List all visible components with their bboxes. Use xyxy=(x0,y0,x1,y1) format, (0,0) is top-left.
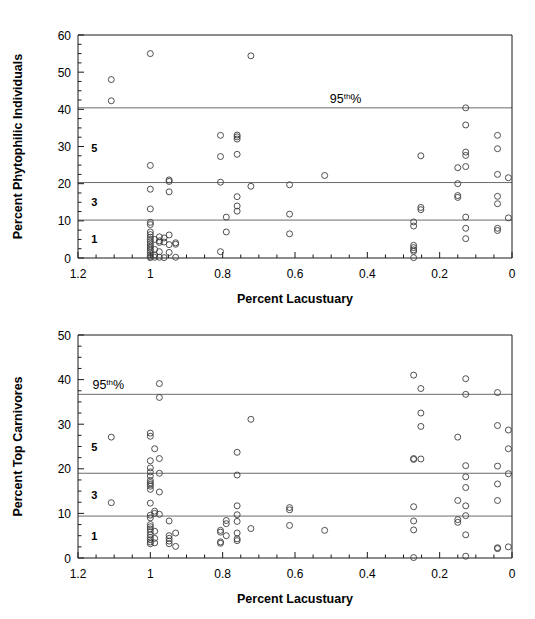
data-point xyxy=(248,183,254,189)
data-point xyxy=(418,410,424,416)
zone-label: 1 xyxy=(91,530,97,542)
data-point xyxy=(147,162,153,168)
x-tick-label: 0.4 xyxy=(359,567,376,581)
x-tick-label: 0.2 xyxy=(431,267,448,281)
data-point xyxy=(463,225,469,231)
data-point xyxy=(173,543,179,549)
plot-frame xyxy=(78,35,512,258)
zone-label: 3 xyxy=(91,196,97,208)
data-point xyxy=(108,77,114,83)
data-point xyxy=(495,497,501,503)
data-point xyxy=(463,376,469,382)
y-tick-label: 50 xyxy=(58,66,72,80)
percentile-annotation: 95th% xyxy=(330,91,362,106)
figure-page: 01020304050601.210.80.60.40.2053195th%Pe… xyxy=(0,0,535,619)
data-point xyxy=(218,132,224,138)
data-point xyxy=(287,231,293,237)
y-tick-label: 60 xyxy=(58,29,72,43)
data-point xyxy=(248,526,254,532)
data-point xyxy=(463,122,469,128)
data-point xyxy=(147,500,153,506)
data-point xyxy=(152,446,158,452)
data-point xyxy=(495,146,501,152)
chart-phytophilic-svg: 01020304050601.210.80.60.40.2053195th%Pe… xyxy=(0,0,535,310)
data-point xyxy=(455,434,461,440)
data-point xyxy=(495,171,501,177)
data-point xyxy=(223,214,229,220)
x-tick-label: 0 xyxy=(509,567,516,581)
y-tick-label: 0 xyxy=(64,252,71,266)
data-point xyxy=(156,394,162,400)
data-point xyxy=(495,132,501,138)
y-tick-label: 20 xyxy=(58,177,72,191)
data-point xyxy=(287,522,293,528)
data-point xyxy=(248,53,254,59)
y-tick-label: 20 xyxy=(58,462,72,476)
data-point xyxy=(108,500,114,506)
data-point xyxy=(455,497,461,503)
x-axis-title: Percent Lacustuary xyxy=(237,292,353,306)
x-tick-label: 1 xyxy=(147,267,154,281)
data-point xyxy=(495,193,501,199)
data-point xyxy=(418,153,424,159)
plot-frame xyxy=(78,335,512,558)
data-point xyxy=(463,236,469,242)
data-point xyxy=(147,186,153,192)
x-tick-label: 1.2 xyxy=(70,567,87,581)
data-point xyxy=(463,532,469,538)
data-point xyxy=(218,249,224,255)
data-point xyxy=(166,518,172,524)
data-point xyxy=(463,164,469,170)
data-point xyxy=(455,181,461,187)
data-point xyxy=(505,427,511,433)
data-point xyxy=(418,423,424,429)
data-point xyxy=(234,503,240,509)
data-point xyxy=(234,194,240,200)
x-tick-label: 0.6 xyxy=(287,567,304,581)
data-point xyxy=(411,504,417,510)
data-point xyxy=(234,449,240,455)
data-point xyxy=(418,386,424,392)
data-point xyxy=(218,154,224,160)
data-point xyxy=(156,456,162,462)
data-point xyxy=(411,518,417,524)
data-point xyxy=(173,530,179,536)
data-point xyxy=(463,463,469,469)
data-point xyxy=(495,201,501,207)
data-point xyxy=(223,229,229,235)
data-point xyxy=(495,423,501,429)
data-point xyxy=(234,512,240,518)
y-tick-label: 40 xyxy=(58,103,72,117)
y-tick-label: 10 xyxy=(58,214,72,228)
x-tick-label: 0.4 xyxy=(359,267,376,281)
data-point xyxy=(495,481,501,487)
x-tick-label: 0.8 xyxy=(214,567,231,581)
percentile-annotation: 95th% xyxy=(92,378,124,393)
y-tick-label: 30 xyxy=(58,140,72,154)
data-point xyxy=(223,533,229,539)
data-point xyxy=(505,175,511,181)
data-point xyxy=(234,530,240,536)
data-point xyxy=(322,527,328,533)
chart-carnivores-svg: 010203040501.210.80.60.40.2053195th%Perc… xyxy=(0,310,535,619)
x-tick-label: 1.2 xyxy=(70,267,87,281)
zone-label: 3 xyxy=(91,489,97,501)
y-tick-label: 40 xyxy=(58,373,72,387)
percentile-annotation-text: 95th% xyxy=(330,91,362,106)
data-point xyxy=(234,518,240,524)
data-point xyxy=(166,232,172,238)
data-point xyxy=(147,458,153,464)
y-tick-label: 10 xyxy=(58,507,72,521)
x-tick-label: 0.2 xyxy=(431,567,448,581)
data-point xyxy=(463,485,469,491)
scatter-series xyxy=(108,372,511,560)
data-point xyxy=(463,474,469,480)
chart-carnivores: 010203040501.210.80.60.40.2053195th%Perc… xyxy=(0,310,535,619)
data-point xyxy=(234,151,240,157)
x-tick-label: 1 xyxy=(147,567,154,581)
x-tick-label: 0.6 xyxy=(287,267,304,281)
y-axis-title: Percent Phytophilic Individuals xyxy=(11,54,25,240)
data-point xyxy=(108,434,114,440)
data-point xyxy=(411,372,417,378)
y-tick-label: 0 xyxy=(64,552,71,566)
